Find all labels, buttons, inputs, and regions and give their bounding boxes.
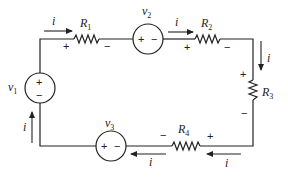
wires [40, 39, 253, 146]
svg-text:i: i [52, 14, 55, 28]
svg-text:i: i [267, 51, 270, 65]
resistor-zigzag-icon [195, 35, 220, 43]
current-arrow-left: i [23, 112, 32, 143]
svg-text:i: i [23, 120, 26, 134]
r4-plus: + [207, 130, 213, 142]
voltage-source-v1: + − v1 [8, 73, 55, 103]
v3-plus: + [101, 140, 107, 152]
r2-plus: + [184, 41, 190, 53]
v1-sub: 1 [13, 87, 17, 96]
r3-minus: − [241, 107, 247, 119]
wire-bottom-left [40, 103, 96, 146]
r3-sub: 3 [269, 92, 273, 101]
r2-minus: − [224, 41, 230, 53]
r3-plus: + [240, 68, 246, 80]
v3-minus: − [114, 140, 120, 152]
svg-text:i: i [225, 156, 228, 170]
current-arrow-top-right: i [168, 15, 193, 32]
r1-minus: − [104, 40, 110, 52]
circuit-diagram: R1 + − i + − v2 i R2 + − i R3 + − R [0, 0, 288, 179]
v2-minus: − [151, 33, 157, 45]
svg-text:i: i [175, 15, 178, 29]
current-arrow-bottom-right: i [207, 154, 241, 170]
r4-minus: − [160, 129, 166, 141]
current-arrow-right: i [261, 41, 270, 70]
svg-text:R2: R2 [200, 16, 212, 32]
voltage-source-v3: + − v3 [96, 116, 126, 161]
resistor-r3: R3 + − [240, 68, 273, 119]
svg-text:R4: R4 [177, 122, 189, 138]
svg-text:v2: v2 [142, 4, 151, 20]
r1-plus: + [63, 40, 69, 52]
r2-sub: 2 [208, 23, 212, 32]
svg-text:R3: R3 [261, 85, 273, 101]
r1-sub: 1 [87, 23, 91, 32]
r4-sub: 4 [185, 129, 189, 138]
v3-sub: 3 [110, 123, 114, 132]
voltage-source-v2: + − v2 [133, 4, 163, 54]
svg-text:i: i [149, 155, 152, 169]
resistor-r1: R1 + − [63, 16, 110, 52]
v2-plus: + [138, 33, 144, 45]
svg-text:v3: v3 [105, 116, 114, 132]
v1-minus: − [36, 89, 42, 101]
svg-text:R1: R1 [79, 16, 91, 32]
resistor-zigzag-icon [172, 142, 200, 150]
resistor-zigzag-icon [74, 35, 99, 43]
resistor-r2: R2 + − [184, 16, 230, 53]
resistor-zigzag-icon [249, 80, 257, 100]
v2-sub: 2 [147, 11, 151, 20]
current-arrow-bottom-left: i [131, 154, 166, 169]
svg-text:v1: v1 [8, 80, 17, 96]
v1-plus: + [36, 76, 42, 88]
current-arrow-top-left: i [44, 14, 72, 31]
